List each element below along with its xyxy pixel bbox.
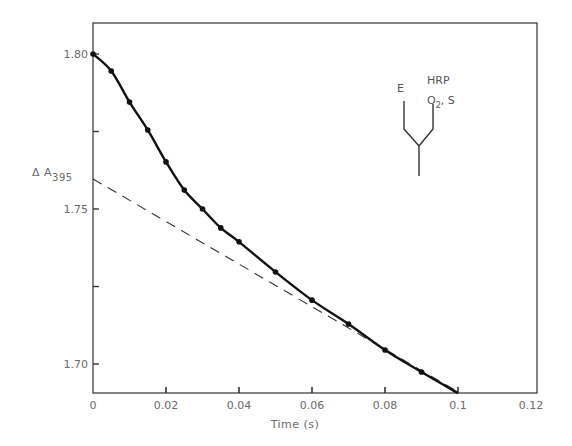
data-point — [181, 187, 187, 193]
x-tick-label: 0.08 — [373, 399, 398, 412]
x-tick-label: 0.04 — [227, 399, 252, 412]
x-tick-label: 0 — [90, 399, 97, 412]
x-tick-label: 0.06 — [300, 399, 325, 412]
mixing-line-right — [419, 104, 433, 146]
x-tick-label: 0.1 — [449, 399, 467, 412]
x-tick-label: 0.12 — [519, 399, 544, 412]
inset-label-hrp: HRP — [427, 74, 450, 87]
data-point — [273, 269, 279, 275]
y-axis-title-sub: 395 — [52, 172, 73, 183]
data-point — [200, 206, 206, 212]
mixing-line-left — [404, 101, 419, 146]
data-point — [236, 239, 242, 245]
data-point — [163, 159, 169, 165]
x-tick-label: 0.02 — [154, 399, 179, 412]
data-point — [90, 51, 96, 57]
data-point — [108, 68, 114, 74]
data-points — [90, 51, 424, 375]
y-axis-title-main: Δ A — [32, 166, 52, 179]
data-point — [127, 99, 133, 105]
y-tick-label: 1.80 — [64, 48, 89, 61]
data-point — [346, 321, 352, 327]
x-axis-title: Time (s) — [270, 418, 320, 431]
data-point — [218, 225, 224, 231]
mixing-diagram: E HRP O2, S — [397, 74, 455, 176]
data-point — [382, 347, 388, 353]
chart-canvas: 1.701.751.80 00.020.040.060.080.10.12 Δ … — [0, 0, 572, 446]
plot-frame — [93, 23, 537, 393]
observed-curve — [93, 54, 458, 393]
data-point — [419, 369, 425, 375]
data-point — [309, 297, 315, 303]
y-tick-label: 1.75 — [64, 203, 89, 216]
y-axis-ticks: 1.701.751.80 — [64, 48, 100, 371]
x-axis-ticks: 00.020.040.060.080.10.12 — [90, 387, 544, 412]
data-point — [145, 127, 151, 133]
y-axis-title: Δ A395 — [32, 166, 73, 183]
y-tick-label: 1.70 — [64, 358, 89, 371]
inset-label-e: E — [397, 82, 404, 95]
inset-label-o2-s: O2, S — [427, 94, 455, 110]
